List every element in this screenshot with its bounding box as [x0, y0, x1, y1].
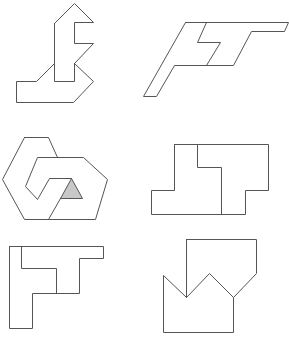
puzzle-figure [0, 0, 289, 340]
figure-background [0, 0, 289, 340]
